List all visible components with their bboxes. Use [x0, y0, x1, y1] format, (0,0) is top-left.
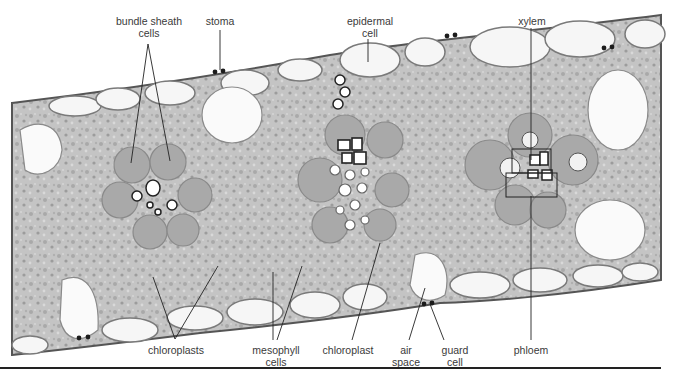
- label-chloroplasts: chloroplasts: [148, 344, 204, 356]
- label-chloroplast: chloroplast: [323, 344, 374, 356]
- label-stoma: stoma: [206, 15, 235, 27]
- leaf-cross-section-figure: [0, 0, 675, 377]
- label-epidermal-cell: epidermal cell: [347, 15, 393, 39]
- label-mesophyll-cells: mesophyll cells: [252, 344, 299, 368]
- label-xylem: xylem: [518, 15, 545, 27]
- label-guard-cell: guard cell: [442, 344, 469, 368]
- label-air-space: air space: [392, 344, 420, 368]
- label-phloem: phloem: [514, 344, 548, 356]
- label-bundle-sheath-cells: bundle sheath cells: [116, 15, 182, 39]
- bottom-rule: [0, 367, 661, 369]
